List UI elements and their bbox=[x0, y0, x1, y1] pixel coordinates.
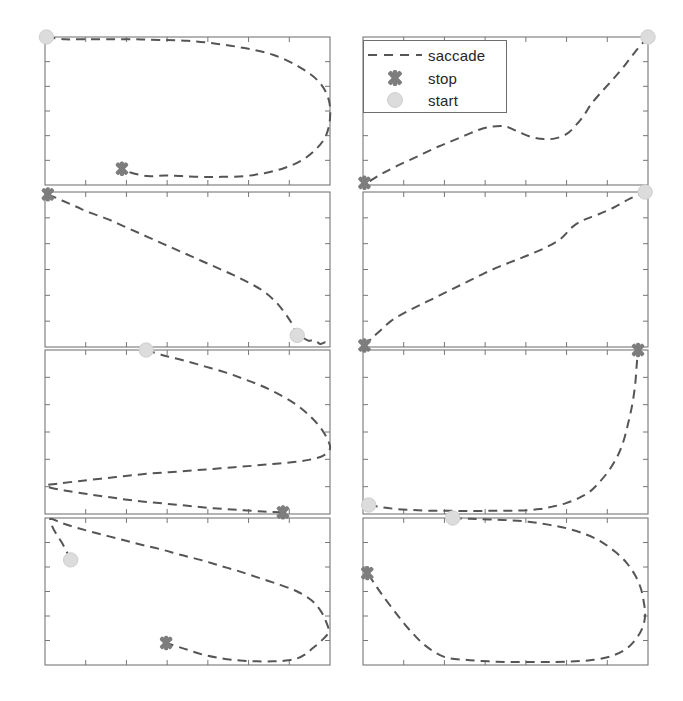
start-marker bbox=[290, 328, 304, 342]
start-marker bbox=[139, 343, 153, 357]
start-circle-icon bbox=[364, 88, 426, 112]
start-marker bbox=[641, 30, 655, 44]
saccade-path bbox=[50, 519, 329, 662]
panel-frame bbox=[363, 350, 648, 514]
stop-x-icon bbox=[364, 66, 426, 90]
stop-marker bbox=[159, 636, 173, 650]
panel-4 bbox=[357, 185, 652, 353]
stop-marker bbox=[41, 187, 55, 201]
panel-3 bbox=[41, 187, 330, 347]
panel-frame bbox=[363, 192, 648, 347]
panel-frame bbox=[45, 518, 330, 665]
panel-frame bbox=[45, 192, 330, 347]
panel-5 bbox=[45, 343, 330, 520]
legend: saccade stop start bbox=[363, 40, 507, 113]
stop-marker bbox=[115, 162, 129, 176]
panel-1 bbox=[39, 30, 330, 185]
legend-entry-stop: stop bbox=[364, 66, 508, 90]
saccade-trajectory-figure: saccade stop start bbox=[0, 0, 683, 701]
start-marker bbox=[446, 511, 460, 525]
panel-frame bbox=[45, 37, 330, 185]
stop-marker bbox=[360, 566, 374, 580]
legend-label-start: start bbox=[426, 93, 458, 108]
panel-8 bbox=[360, 511, 648, 665]
panel-7 bbox=[45, 518, 330, 665]
saccade-line-icon bbox=[364, 49, 426, 61]
start-marker bbox=[63, 553, 77, 567]
panel-grid bbox=[0, 0, 683, 701]
legend-label-stop: stop bbox=[426, 71, 457, 86]
start-marker bbox=[638, 185, 652, 199]
saccade-path bbox=[48, 194, 330, 346]
saccade-path bbox=[46, 350, 330, 512]
panel-frame bbox=[363, 518, 648, 665]
saccade-path bbox=[364, 192, 645, 345]
saccade-path bbox=[369, 350, 638, 511]
legend-label-saccade: saccade bbox=[426, 48, 485, 63]
legend-entry-start: start bbox=[364, 88, 508, 112]
start-marker bbox=[39, 30, 53, 44]
stop-marker bbox=[357, 176, 371, 190]
panel-6 bbox=[362, 343, 649, 514]
saccade-path bbox=[46, 37, 330, 177]
start-marker bbox=[362, 498, 376, 512]
panel-frame bbox=[45, 350, 330, 514]
saccade-path bbox=[367, 518, 645, 662]
legend-entry-saccade: saccade bbox=[364, 43, 508, 67]
